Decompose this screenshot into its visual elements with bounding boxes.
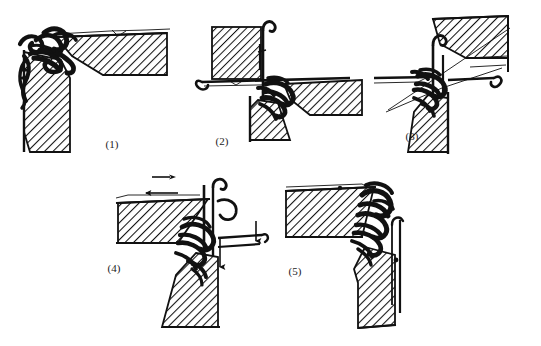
needle-hook-top [263,22,275,32]
lower-hatched-column [354,247,395,328]
panel-1-label: (1) [106,138,119,151]
latch-node-dot [394,258,399,263]
block-shelf-2 [470,65,506,67]
right-sinker-hook [262,234,268,242]
needle-latch-cap [392,218,403,225]
panel-3: (3) [370,0,541,165]
figure-root: (1) (2) [0,0,541,346]
needle-latch-4 [218,200,236,220]
panel-2: (2) [190,0,370,165]
needle-hook-top-4 [213,179,226,189]
hatched-block [212,27,261,79]
sinker-bar-right [448,78,494,80]
lower-hatched-column [162,253,218,327]
panel-4: (4) [100,165,290,346]
panel-4-label: (4) [108,262,121,275]
yarn-feed-arrow-head [169,174,176,179]
panel-2-label: (2) [216,135,229,148]
panel-3-label: (3) [406,130,419,143]
lower-hatched-column [408,95,448,152]
panel-5: (5) [270,165,460,346]
wedge-feed-line [116,195,200,198]
panel-1: (1) [0,0,190,165]
hatched-wedge-right [284,80,362,115]
right-sinker-bar-2 [218,244,260,247]
wedge-node-dot [338,186,342,190]
panel-5-label: (5) [289,265,302,278]
